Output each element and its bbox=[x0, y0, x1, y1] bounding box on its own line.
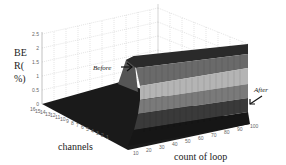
svg-text:2.5: 2.5 bbox=[32, 31, 39, 37]
svg-text:100: 100 bbox=[250, 123, 259, 129]
z-tick-labels: 2.5 2 1.5 1 0.5 0 bbox=[32, 31, 39, 107]
svg-text:2: 2 bbox=[36, 45, 39, 51]
svg-text:1: 1 bbox=[106, 134, 109, 140]
svg-text:80: 80 bbox=[224, 129, 230, 135]
svg-text:10: 10 bbox=[133, 150, 139, 156]
svg-text:30: 30 bbox=[159, 144, 165, 150]
z-axis-label: BE R( %) bbox=[14, 47, 27, 85]
svg-text:60: 60 bbox=[198, 135, 204, 141]
svg-text:5: 5 bbox=[86, 126, 89, 132]
svg-text:50: 50 bbox=[185, 138, 191, 144]
svg-text:1: 1 bbox=[36, 73, 39, 79]
svg-text:10: 10 bbox=[60, 116, 66, 122]
after-arrow-icon bbox=[250, 96, 262, 104]
svg-text:%): %) bbox=[14, 73, 26, 85]
svg-text:40: 40 bbox=[172, 141, 178, 147]
svg-text:1.5: 1.5 bbox=[32, 59, 39, 65]
svg-text:3: 3 bbox=[96, 130, 99, 136]
after-annotation: After bbox=[253, 86, 268, 94]
svg-text:0.5: 0.5 bbox=[32, 87, 39, 93]
svg-text:0: 0 bbox=[36, 101, 39, 107]
svg-text:20: 20 bbox=[146, 147, 152, 153]
before-annotation: Before bbox=[93, 64, 111, 72]
channels-axis-label: channels bbox=[58, 141, 93, 152]
svg-text:7: 7 bbox=[76, 122, 79, 128]
svg-text:9: 9 bbox=[66, 118, 69, 124]
ber-surface-chart: 2.5 2 1.5 1 0.5 0 BE R( %) 16 15 14 13 1… bbox=[0, 0, 286, 165]
svg-text:BE: BE bbox=[14, 47, 27, 58]
count-of-loop-axis-label: count of loop bbox=[174, 151, 227, 162]
svg-text:6: 6 bbox=[81, 124, 84, 130]
svg-text:90: 90 bbox=[237, 126, 243, 132]
svg-text:4: 4 bbox=[91, 128, 94, 134]
svg-text:8: 8 bbox=[71, 120, 74, 126]
svg-text:70: 70 bbox=[211, 132, 217, 138]
svg-text:2: 2 bbox=[101, 132, 104, 138]
svg-text:R(: R( bbox=[14, 60, 25, 72]
